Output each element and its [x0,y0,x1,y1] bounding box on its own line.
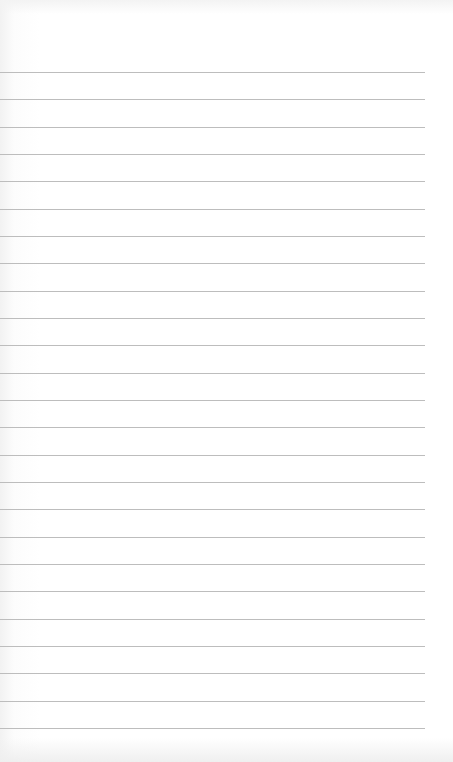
ruled-line [0,673,425,674]
ruled-line [0,72,425,73]
ruled-line [0,591,425,592]
ruled-line [0,427,425,428]
bottom-edge-shadow [0,738,453,762]
ruled-line [0,154,425,155]
ruled-line [0,318,425,319]
ruled-line [0,99,425,100]
ruled-line [0,263,425,264]
ruled-line [0,482,425,483]
ruled-line [0,537,425,538]
lined-paper-page [0,0,453,762]
ruled-line [0,181,425,182]
ruled-line [0,291,425,292]
ruled-line [0,236,425,237]
ruled-line [0,646,425,647]
ruled-line [0,701,425,702]
ruled-line [0,564,425,565]
ruled-line [0,400,425,401]
ruled-line [0,619,425,620]
ruled-line [0,345,425,346]
top-edge-shadow [0,0,453,14]
ruled-line [0,509,425,510]
ruled-line [0,728,425,729]
ruled-line [0,209,425,210]
ruled-line [0,455,425,456]
ruled-line [0,127,425,128]
ruled-line [0,373,425,374]
